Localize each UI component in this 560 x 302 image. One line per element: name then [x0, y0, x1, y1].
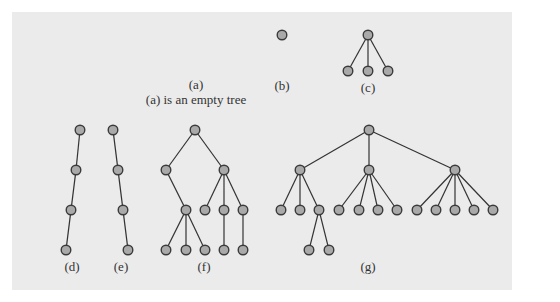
tree-edge: [205, 170, 224, 210]
tree-edge: [166, 170, 186, 210]
tree-b: [277, 30, 287, 40]
label-a: (a): [189, 77, 203, 93]
tree-node: [488, 205, 498, 215]
tree-edge: [186, 210, 205, 250]
tree-node: [200, 245, 210, 255]
tree-node: [450, 205, 460, 215]
tree-node: [123, 245, 133, 255]
tree-node: [66, 205, 76, 215]
tree-edge: [281, 170, 300, 210]
tree-node: [118, 205, 128, 215]
tree-node: [75, 125, 85, 135]
tree-node: [354, 205, 364, 215]
tree-edge: [300, 170, 319, 210]
tree-edge: [71, 170, 76, 210]
tree-d: [61, 125, 85, 255]
tree-edge: [166, 210, 186, 250]
tree-node: [238, 245, 248, 255]
tree-diagrams: [0, 0, 560, 302]
tree-node: [71, 165, 81, 175]
tree-node: [113, 165, 123, 175]
tree-node: [383, 66, 393, 76]
tree-f: [161, 125, 248, 255]
tree-node: [238, 205, 248, 215]
tree-e: [108, 125, 133, 255]
tree-c: [343, 30, 393, 76]
tree-node: [343, 66, 353, 76]
tree-edge: [348, 35, 368, 71]
tree-node: [219, 245, 229, 255]
tree-node: [304, 245, 314, 255]
tree-edge: [417, 170, 455, 210]
tree-edge: [455, 170, 474, 210]
tree-node: [219, 205, 229, 215]
tree-node: [431, 205, 441, 215]
tree-node: [363, 66, 373, 76]
tree-edge: [76, 130, 80, 170]
label-c: (c): [361, 80, 375, 96]
tree-node: [108, 125, 118, 135]
tree-edge: [369, 130, 455, 170]
tree-node: [363, 30, 373, 40]
tree-edge: [66, 210, 71, 250]
tree-edge: [455, 170, 493, 210]
tree-edge: [166, 130, 195, 170]
label-e: (e): [114, 259, 128, 275]
tree-node: [324, 245, 334, 255]
tree-node: [190, 125, 200, 135]
tree-edge: [319, 210, 329, 250]
tree-node: [295, 165, 305, 175]
tree-edge: [118, 170, 123, 210]
tree-node: [373, 205, 383, 215]
tree-node: [412, 205, 422, 215]
tree-edge: [368, 35, 388, 71]
tree-node: [364, 125, 374, 135]
tree-edge: [300, 130, 369, 170]
label-d: (d): [64, 259, 79, 275]
tree-node: [181, 245, 191, 255]
tree-edge: [113, 130, 118, 170]
tree-node: [392, 205, 402, 215]
tree-node: [61, 245, 71, 255]
tree-node: [314, 205, 324, 215]
tree-edge: [309, 210, 319, 250]
tree-node: [295, 205, 305, 215]
tree-node: [276, 205, 286, 215]
tree-edge: [436, 170, 455, 210]
label-f: (f): [198, 259, 211, 275]
tree-node: [181, 205, 191, 215]
tree-node: [277, 30, 287, 40]
tree-node: [161, 245, 171, 255]
tree-node: [450, 165, 460, 175]
tree-edge: [224, 170, 243, 210]
tree-edge: [123, 210, 128, 250]
tree-node: [200, 205, 210, 215]
label-b: (b): [274, 78, 289, 94]
tree-node: [219, 165, 229, 175]
tree-node: [334, 205, 344, 215]
label-g: (g): [360, 259, 375, 275]
tree-edge: [195, 130, 224, 170]
tree-g: [276, 125, 498, 255]
caption-a-empty-tree: (a) is an empty tree: [146, 92, 246, 108]
tree-node: [469, 205, 479, 215]
tree-node: [161, 165, 171, 175]
tree-node: [364, 165, 374, 175]
